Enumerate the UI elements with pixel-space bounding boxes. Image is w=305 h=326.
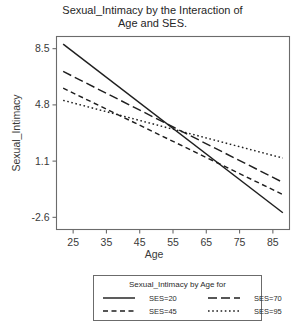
x-tick-label: 35: [101, 236, 113, 248]
y-tick-label: 4.8: [35, 98, 50, 110]
chart-figure: Sexual_Intimacy by the Interaction of Ag…: [0, 0, 305, 326]
series-line-ses-70: [63, 71, 283, 182]
x-tick-label: 25: [67, 236, 79, 248]
x-tick-label: 55: [167, 236, 179, 248]
legend-title: Sexual_Intimacy by Age for: [129, 280, 226, 289]
series-lines-group: [63, 44, 283, 213]
x-axis-title: Age: [145, 248, 164, 260]
x-tick-label: 45: [134, 236, 146, 248]
x-tick-label: 75: [234, 236, 246, 248]
x-axis-ticks: 25354555657585: [67, 230, 279, 248]
series-line-ses-45: [63, 88, 283, 194]
legend-label-ses-45: SES=45: [149, 307, 177, 316]
x-tick-label: 65: [200, 236, 212, 248]
y-tick-label: 8.5: [35, 42, 50, 54]
chart-title-line-1: Sexual_Intimacy by the Interaction of: [62, 4, 243, 16]
legend-label-ses-20: SES=20: [149, 294, 177, 303]
x-tick-label: 85: [267, 236, 279, 248]
y-tick-label: 1.1: [35, 155, 50, 167]
chart-title-line-2: Age and SES.: [118, 17, 187, 29]
legend-label-ses-70: SES=70: [254, 294, 282, 303]
y-tick-label: -2.6: [31, 211, 49, 223]
series-line-ses-20: [63, 44, 283, 213]
legend-label-ses-95: SES=95: [254, 307, 282, 316]
y-axis-ticks: 8.54.81.1-2.6: [31, 42, 56, 223]
series-line-ses-95: [63, 100, 283, 158]
y-axis-title: Sexual_Intimacy: [10, 94, 22, 172]
